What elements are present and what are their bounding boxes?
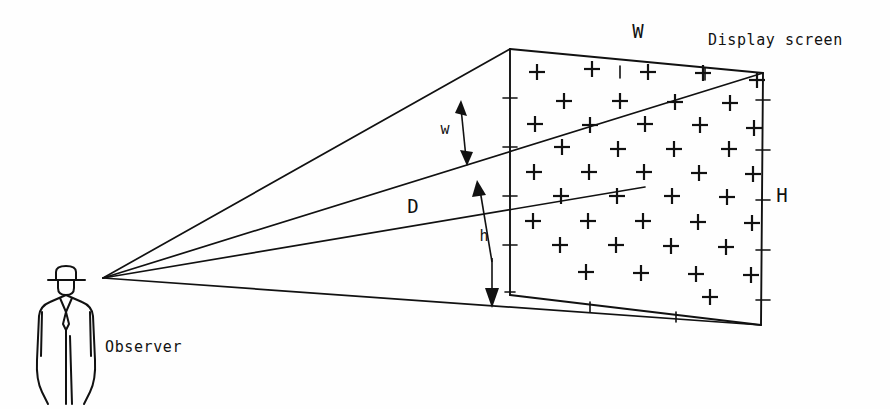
observer-arm-right: [90, 312, 91, 356]
label-viewing-distance: D: [407, 195, 418, 217]
label-observer: Observer: [105, 338, 182, 356]
label-screen-width: W: [632, 20, 644, 42]
label-subtended-width: w: [440, 120, 450, 138]
viewing-geometry-figure: W Display screen H w D h Observer: [0, 0, 890, 409]
label-display-screen: Display screen: [708, 31, 843, 49]
label-subtended-height: h: [479, 227, 488, 245]
observer-arm-left: [41, 312, 42, 356]
diagram-canvas: W Display screen H w D h Observer: [0, 0, 890, 409]
label-screen-height: H: [776, 184, 787, 206]
